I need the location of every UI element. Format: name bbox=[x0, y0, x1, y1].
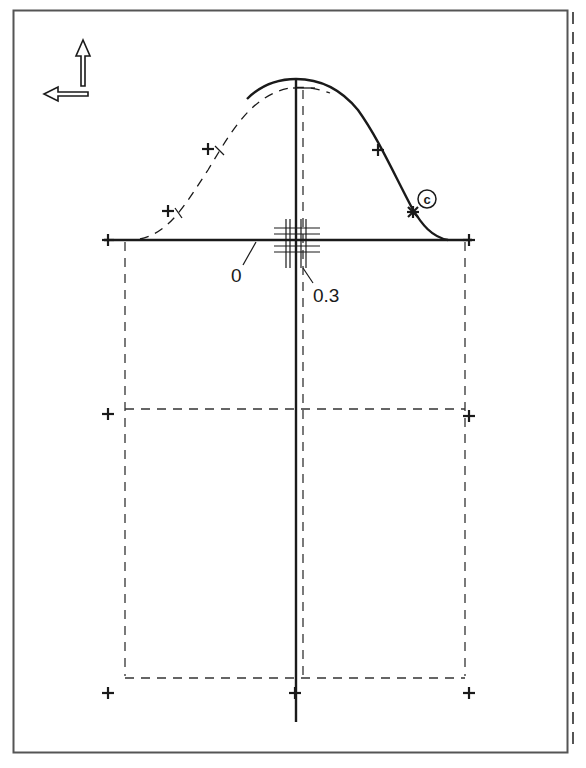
corner-marks bbox=[102, 234, 475, 699]
arrow-up-icon bbox=[76, 40, 90, 86]
circle-c-marker: c bbox=[418, 190, 436, 208]
zero-label-group: 0 bbox=[231, 242, 256, 286]
zero-label: 0 bbox=[231, 265, 242, 286]
offset-label-group: 0.3 bbox=[303, 268, 339, 306]
circle-c-label: c bbox=[423, 192, 430, 207]
sleeve-cap-curve bbox=[140, 79, 448, 240]
arrow-left-icon bbox=[44, 87, 88, 101]
offset-label: 0.3 bbox=[313, 285, 339, 306]
main-axes bbox=[104, 79, 472, 722]
pattern-diagram: 0 0.3 c bbox=[0, 0, 586, 768]
page-frame bbox=[14, 11, 574, 753]
